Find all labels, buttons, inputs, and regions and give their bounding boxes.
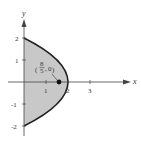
y-axis-arrow-icon [22, 19, 27, 27]
x-axis-label: x [132, 77, 137, 86]
centroid-point [57, 80, 62, 85]
centroid-diagram: x y 1 2 3 2 1 -1 -2 ( 8 5 , 0 ) [0, 0, 141, 142]
x-axis-arrow-icon [123, 80, 131, 85]
fraction-denominator: 5 [40, 67, 44, 75]
y-tick-label: -2 [11, 123, 17, 131]
y-tick-label: 2 [15, 35, 19, 43]
x-tick-label: 2 [66, 87, 70, 95]
y-tick-label: 1 [15, 57, 19, 65]
comma: , [45, 65, 47, 73]
y-tick-label: -1 [11, 101, 17, 109]
x-tick-label: 1 [44, 87, 48, 95]
y-axis-label: y [21, 9, 26, 18]
x-tick-label: 3 [88, 87, 92, 95]
